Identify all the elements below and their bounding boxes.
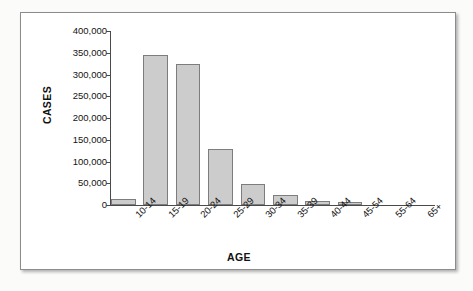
x-axis-tick-label: 40-44	[328, 212, 336, 220]
y-axis-tick-mark	[106, 140, 110, 141]
y-axis-tick-mark	[106, 162, 110, 163]
x-axis-tick-label: 10-14	[133, 212, 141, 220]
y-axis-tick-label: 250,000	[45, 91, 107, 101]
x-axis-tick-label: 45-54	[360, 212, 368, 220]
y-axis-tick-label: 300,000	[45, 70, 107, 80]
figure-frame: CASES 050,000100,000150,000200,000250,00…	[20, 12, 456, 270]
bar-chart: CASES 050,000100,000150,000200,000250,00…	[21, 13, 457, 271]
x-axis-tick-label: 35-39	[295, 212, 303, 220]
y-axis-tick-mark	[106, 96, 110, 97]
y-axis-tick-label: 0	[45, 200, 107, 210]
bar-slot	[338, 31, 363, 205]
y-axis-tick-mark	[106, 205, 110, 206]
y-axis-tick-mark	[106, 183, 110, 184]
x-axis-tick-label: 30-34	[263, 212, 271, 220]
bar[interactable]	[111, 199, 136, 205]
bar-slot	[403, 31, 428, 205]
y-axis-tick-label: 350,000	[45, 48, 107, 58]
y-axis-tick-label: 50,000	[45, 178, 107, 188]
bar-slot	[176, 31, 201, 205]
y-axis-tick-label: 150,000	[45, 135, 107, 145]
x-axis-title: AGE	[21, 251, 457, 263]
y-axis-tick-mark	[106, 53, 110, 54]
x-axis-tick-label: 20-24	[198, 212, 206, 220]
bar-slot	[143, 31, 168, 205]
bar[interactable]	[176, 64, 201, 205]
x-axis-tick-labels: 10-1415-1920-2425-2930-3435-3940-4445-54…	[111, 206, 436, 251]
y-axis-tick-label: 400,000	[45, 26, 107, 36]
x-axis-tick-label: 15-19	[166, 212, 174, 220]
bar-slot	[370, 31, 395, 205]
y-axis-tick-label: 200,000	[45, 113, 107, 123]
bar[interactable]	[143, 55, 168, 206]
x-axis-tick-label: 65+	[425, 212, 433, 220]
bar-slot	[273, 31, 298, 205]
x-axis-tick-label: 55-64	[393, 212, 401, 220]
bar-slot	[305, 31, 330, 205]
bar-slot	[241, 31, 266, 205]
y-axis-tick-labels: 050,000100,000150,000200,000250,000300,0…	[45, 26, 107, 206]
y-axis-tick-mark	[106, 118, 110, 119]
y-axis-tick-mark	[106, 75, 110, 76]
y-axis-tick-mark	[106, 31, 110, 32]
bar-slot	[111, 31, 136, 205]
x-axis-tick-label: 25-29	[231, 212, 239, 220]
bar-slot	[208, 31, 233, 205]
y-axis-tick-label: 100,000	[45, 157, 107, 167]
bar-series	[111, 31, 435, 205]
plot-area	[110, 31, 435, 206]
